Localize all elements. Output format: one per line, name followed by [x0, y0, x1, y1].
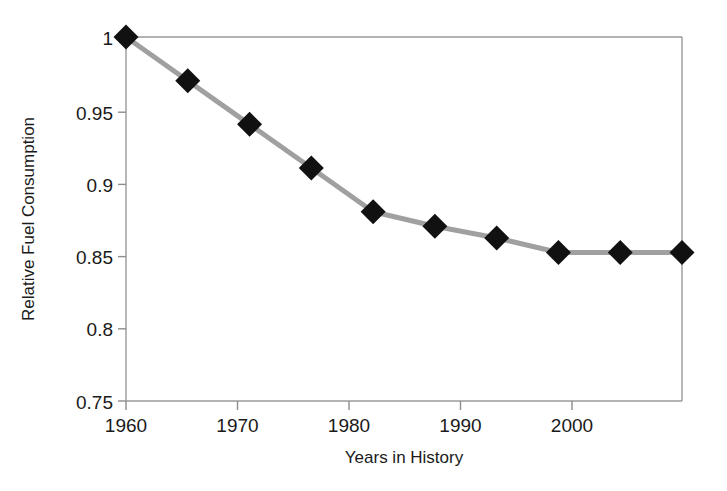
x-tick-label: 1970 — [216, 415, 258, 436]
data-point-marker — [484, 225, 509, 250]
chart-canvas: 1 0.95 0.9 0.85 0.8 0.75 1960 1970 1980 … — [0, 0, 727, 491]
data-point-marker — [422, 214, 447, 239]
relative-fuel-consumption-chart: 1 0.95 0.9 0.85 0.8 0.75 1960 1970 1980 … — [0, 0, 727, 491]
y-tick-label: 1 — [102, 28, 113, 49]
x-axis-title: Years in History — [345, 448, 464, 467]
y-axis-title: Relative Fuel Consumption — [19, 117, 38, 321]
y-tick-label: 0.75 — [76, 392, 113, 413]
data-series — [114, 25, 695, 265]
x-tick-label: 2000 — [551, 415, 593, 436]
x-tick-label: 1980 — [328, 415, 370, 436]
data-point-marker — [546, 240, 571, 265]
x-tick-labels: 1960 1970 1980 1990 2000 — [105, 415, 593, 436]
series-line — [126, 37, 682, 252]
y-tick-label: 0.9 — [87, 175, 113, 196]
y-tick-label: 0.95 — [76, 103, 113, 124]
chart-page: 1 0.95 0.9 0.85 0.8 0.75 1960 1970 1980 … — [0, 0, 727, 491]
x-tick-label: 1990 — [439, 415, 481, 436]
y-tick-marks — [118, 37, 126, 401]
y-tick-label: 0.8 — [87, 319, 113, 340]
data-point-marker — [608, 240, 633, 265]
x-tick-marks — [126, 401, 572, 410]
y-tick-labels: 1 0.95 0.9 0.85 0.8 0.75 — [76, 28, 113, 413]
data-point-marker — [670, 240, 695, 265]
x-tick-label: 1960 — [105, 415, 147, 436]
y-tick-label: 0.85 — [76, 247, 113, 268]
